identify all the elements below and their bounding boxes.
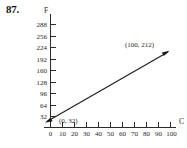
figure-container: 87. 288 256 224 192 160 128 96 64 [0, 0, 187, 148]
y-tick-label: 96 [40, 90, 48, 98]
x-tick-label: 60 [119, 130, 127, 138]
data-line-fahrenheit-celsius [47, 52, 168, 122]
y-tick-label: 128 [37, 79, 48, 87]
x-axis-tick-labels: 0 10 20 30 40 50 60 70 80 90 100 [49, 130, 178, 138]
y-tick-label: 224 [37, 44, 48, 52]
y-axis-title: F [44, 6, 48, 15]
y-tick-label: 160 [37, 67, 48, 75]
y-tick-label: 192 [37, 56, 48, 64]
x-axis-title: C [179, 117, 184, 126]
y-tick-label: 32 [40, 113, 48, 121]
y-axis-tick-labels: 288 256 224 192 160 128 96 64 32 [37, 21, 48, 121]
x-tick-label: 30 [83, 130, 91, 138]
x-tick-label: 40 [95, 130, 103, 138]
y-tick-label: 256 [37, 33, 48, 41]
y-tick-label: 64 [40, 102, 48, 110]
x-tick-label: 0 [49, 130, 53, 138]
annotation-point-freezing: (0, 32) [59, 117, 78, 125]
y-tick-label: 288 [37, 21, 48, 29]
x-tick-label: 50 [107, 130, 115, 138]
x-tick-label: 100 [166, 130, 177, 138]
coordinate-plot: 288 256 224 192 160 128 96 64 32 F [0, 0, 187, 148]
x-tick-label: 10 [59, 130, 67, 138]
x-tick-label: 20 [71, 130, 79, 138]
y-axis-ticks [51, 25, 57, 117]
x-tick-label: 70 [131, 130, 139, 138]
annotation-point-boiling: (100, 212) [125, 41, 155, 49]
x-tick-label: 80 [143, 130, 151, 138]
x-tick-label: 90 [155, 130, 163, 138]
